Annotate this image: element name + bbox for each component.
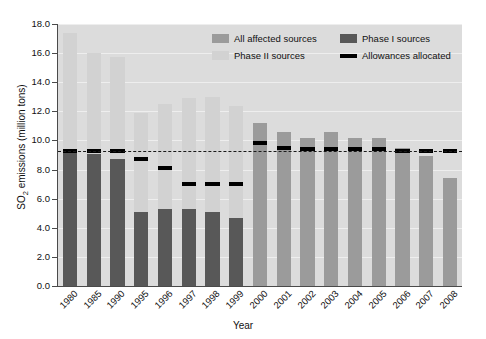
x-axis-tick-label: 2004 — [334, 288, 364, 318]
y-axis-line — [57, 24, 58, 287]
bar-phase-i — [158, 209, 172, 286]
bar-group — [134, 24, 148, 286]
legend-label: Phase I sources — [362, 33, 430, 44]
x-axis-line — [57, 286, 462, 287]
legend-label: All affected sources — [234, 33, 317, 44]
y-axis-title-subscript: 2 — [21, 191, 30, 195]
allowance-marker — [158, 166, 172, 170]
chart-legend: All affected sourcesPhase I sourcesPhase… — [212, 30, 464, 64]
allowance-marker — [229, 182, 243, 186]
allowance-marker — [277, 146, 291, 150]
bar-all-affected — [253, 123, 267, 286]
bar-group — [158, 24, 172, 286]
x-axis-tick-label: 1995 — [121, 288, 151, 318]
x-axis-tick-label: 2001 — [263, 288, 293, 318]
x-axis-tick-label: 1980 — [49, 288, 79, 318]
x-axis-tick-label: 2000 — [239, 288, 269, 318]
y-axis-title-suffix: emissions (million tons) — [16, 84, 27, 191]
allowance-marker — [253, 141, 267, 145]
bar-phase-i — [182, 209, 196, 286]
so2-emissions-chart: 0.02.04.06.08.010.012.014.016.018.0 SO2 … — [0, 0, 486, 339]
x-axis-tick-label: 1999 — [216, 288, 246, 318]
y-axis-title-prefix: SO — [16, 195, 27, 209]
bar-all-affected — [395, 148, 409, 286]
bar-all-affected — [300, 138, 314, 286]
x-axis-tick-label: 1996 — [144, 288, 174, 318]
bar-group — [182, 24, 196, 286]
bar-phase-i — [87, 154, 101, 286]
y-axis-title: SO2 emissions (million tons) — [16, 32, 30, 262]
bar-group — [110, 24, 124, 286]
legend-swatch-all — [212, 34, 229, 43]
allowance-reference-line — [58, 151, 462, 152]
legend-item: Phase II sources — [212, 50, 340, 61]
bar-all-affected — [277, 132, 291, 286]
bar-group — [87, 24, 101, 286]
bar-phase-i — [110, 159, 124, 286]
legend-label: Allowances allocated — [362, 50, 451, 61]
x-axis-tick-label: 2005 — [358, 288, 388, 318]
bar-phase-i — [229, 218, 243, 286]
bar-all-affected — [372, 138, 386, 286]
allowance-marker — [205, 182, 219, 186]
bar-phase-i — [134, 212, 148, 286]
legend-swatch-p1 — [340, 34, 357, 43]
bar-phase-i — [63, 151, 77, 286]
legend-item: Phase I sources — [340, 33, 464, 44]
y-axis-tick-label: 18.0 — [2, 18, 50, 29]
y-axis-tick-label: 0.0 — [2, 280, 50, 291]
allowance-marker — [134, 157, 148, 161]
allowance-marker — [182, 182, 196, 186]
x-axis-title: Year — [0, 320, 486, 331]
bar-group — [63, 24, 77, 286]
x-axis-tick-label: 2008 — [429, 288, 459, 318]
bar-all-affected — [419, 156, 433, 286]
legend-item: All affected sources — [212, 33, 340, 44]
bar-all-affected — [348, 138, 362, 286]
legend-item: Allowances allocated — [340, 50, 464, 61]
bar-all-affected — [324, 132, 338, 286]
legend-swatch-p2 — [212, 51, 229, 60]
bar-all-affected — [443, 178, 457, 286]
legend-swatch-line — [340, 54, 357, 58]
bar-phase-i — [205, 212, 219, 286]
legend-label: Phase II sources — [234, 50, 305, 61]
